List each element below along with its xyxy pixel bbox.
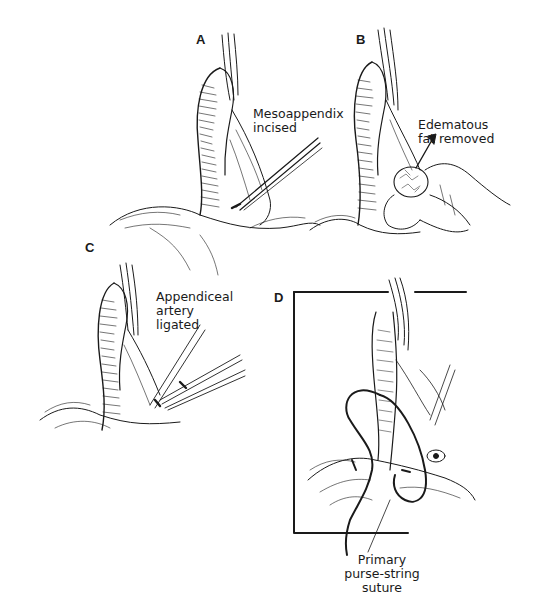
- panel-letter-b: B: [356, 32, 365, 47]
- annotation-mesoappendix: Mesoappendix incised: [253, 107, 344, 135]
- annotation-line: purse-string: [332, 567, 432, 581]
- annotation-edematous-fat: Edematous fat removed: [418, 118, 494, 146]
- annotation-line: suture: [332, 581, 432, 595]
- annotation-line: artery: [156, 304, 233, 318]
- annotation-line: Edematous: [418, 118, 494, 132]
- annotation-appendiceal-artery: Appendiceal artery ligated: [156, 290, 233, 332]
- annotation-line: Appendiceal: [156, 290, 233, 304]
- panel-letter-c: C: [85, 240, 94, 255]
- annotation-line: ligated: [156, 318, 233, 332]
- annotation-line: Mesoappendix: [253, 107, 344, 121]
- annotation-line: incised: [253, 121, 344, 135]
- illustration-drawing: [0, 0, 536, 606]
- panel-d-drawing: [294, 278, 475, 555]
- annotation-line: fat removed: [418, 132, 494, 146]
- annotation-line: Primary: [332, 553, 432, 567]
- panel-letter-d: D: [274, 290, 283, 305]
- annotation-purse-string: Primary purse-string suture: [332, 553, 432, 595]
- panel-letter-a: A: [196, 32, 205, 47]
